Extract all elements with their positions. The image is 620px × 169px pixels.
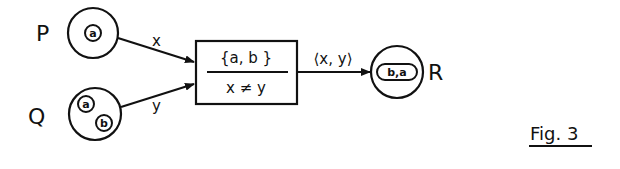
- place-r-label: R: [428, 60, 443, 85]
- place-q-label: Q: [28, 104, 45, 129]
- token-b: b: [96, 115, 112, 131]
- transition-tokens: {a, b }: [220, 49, 272, 67]
- transition-guard: x ≠ y: [226, 79, 266, 97]
- svg-text:b: b: [100, 117, 108, 130]
- token-a: a: [85, 25, 101, 41]
- place-r: b,a R: [371, 46, 443, 98]
- arc-label-y: y: [152, 97, 161, 115]
- place-p: P a: [36, 8, 118, 58]
- caption-text: Fig. 3: [530, 123, 578, 144]
- arc-p-to-transition: x: [118, 32, 194, 62]
- petri-net-diagram: P a Q a b x y {a, b } x ≠ y: [0, 0, 620, 169]
- arc-q-to-transition: y: [121, 84, 194, 115]
- token-ba: b,a: [377, 64, 417, 80]
- svg-text:b,a: b,a: [387, 66, 406, 79]
- figure-caption: Fig. 3: [529, 123, 592, 146]
- arc-label-x: x: [152, 32, 161, 50]
- place-q-circle: [69, 88, 121, 140]
- svg-text:a: a: [82, 98, 89, 111]
- arc-transition-to-r: ⟨x, y⟩: [297, 50, 370, 72]
- token-a: a: [78, 96, 94, 112]
- arc-label-xy: ⟨x, y⟩: [314, 50, 353, 68]
- svg-text:a: a: [89, 27, 96, 40]
- place-q: Q a b: [28, 88, 121, 140]
- transition: {a, b } x ≠ y: [196, 41, 297, 104]
- place-p-label: P: [36, 21, 49, 46]
